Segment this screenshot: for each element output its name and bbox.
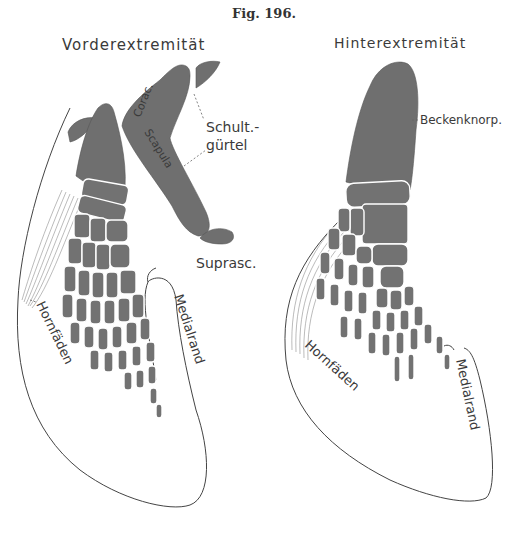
hindlimb-heading: Hinterextremität [334, 35, 466, 51]
beckenknorpel-label: Beckenknorp. [420, 113, 502, 127]
forelimb-heading: Vorderextremität [62, 36, 205, 54]
hindlimb-medialrand-curve [444, 345, 454, 350]
schultguertel-label-line2: gürtel [206, 137, 248, 153]
pelvic-cartilage [346, 62, 418, 190]
forelimb-panel: Vorderextremität [17, 36, 259, 507]
forelimb-medialrand-curve [147, 268, 156, 282]
schultguertel-leader-top [194, 94, 204, 120]
schultguertel-label-line1: Schult.- [206, 119, 259, 135]
girdle-top-cartilage [196, 61, 220, 88]
forelimb-radials [62, 178, 162, 418]
hindlimb-medialrand-label: Medialrand [453, 358, 483, 432]
hindlimb-hornfaeden-label: Hornfäden [302, 337, 363, 394]
suprascapula-label: Suprasc. [196, 255, 256, 271]
forelimb-medialrand-label: Medialrand [171, 292, 208, 366]
fin-skeleton-diagram: Vorderextremität [0, 0, 528, 536]
hindlimb-panel: Hinterextremität [285, 35, 502, 501]
schultguertel-leader-bottom [184, 150, 206, 166]
